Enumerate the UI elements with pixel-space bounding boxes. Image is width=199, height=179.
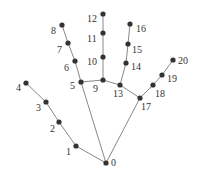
keypoint-17 bbox=[137, 95, 142, 100]
edge-14-15 bbox=[126, 44, 128, 63]
keypoint-label-2: 2 bbox=[50, 123, 55, 134]
edge-5-6 bbox=[75, 61, 81, 82]
labels-layer: 01234567891011121314151617181920 bbox=[16, 13, 188, 168]
keypoint-5 bbox=[78, 79, 83, 84]
keypoint-label-1: 1 bbox=[66, 146, 71, 157]
edge-9-13 bbox=[103, 80, 120, 85]
keypoint-label-11: 11 bbox=[87, 33, 97, 44]
edge-6-7 bbox=[68, 43, 75, 61]
edge-13-17 bbox=[120, 85, 140, 98]
keypoint-label-4: 4 bbox=[16, 82, 21, 93]
keypoint-label-0: 0 bbox=[111, 157, 116, 168]
keypoint-0 bbox=[103, 160, 108, 165]
edge-0-17 bbox=[106, 98, 140, 163]
keypoint-13 bbox=[117, 82, 122, 87]
edge-2-3 bbox=[46, 102, 59, 122]
keypoint-1 bbox=[73, 143, 78, 148]
keypoint-label-8: 8 bbox=[51, 25, 56, 36]
diagram-canvas: 01234567891011121314151617181920 bbox=[0, 0, 199, 179]
keypoint-label-16: 16 bbox=[136, 23, 146, 34]
keypoint-2 bbox=[56, 119, 61, 124]
keypoint-7 bbox=[65, 40, 70, 45]
keypoint-3 bbox=[43, 99, 48, 104]
keypoint-14 bbox=[123, 60, 128, 65]
edge-5-9 bbox=[81, 80, 103, 82]
edge-13-14 bbox=[120, 63, 126, 85]
keypoint-label-7: 7 bbox=[57, 44, 62, 55]
edge-1-2 bbox=[59, 122, 76, 146]
keypoint-10 bbox=[100, 54, 105, 59]
keypoint-12 bbox=[100, 11, 105, 16]
hand-keypoint-diagram: 01234567891011121314151617181920 bbox=[0, 0, 199, 179]
keypoint-20 bbox=[170, 57, 175, 62]
keypoint-label-20: 20 bbox=[178, 55, 188, 66]
keypoint-6 bbox=[72, 58, 77, 63]
keypoint-16 bbox=[127, 21, 132, 26]
keypoint-label-5: 5 bbox=[70, 80, 75, 91]
keypoint-label-12: 12 bbox=[87, 13, 97, 24]
keypoint-label-9: 9 bbox=[93, 83, 98, 94]
edges-layer bbox=[26, 14, 173, 163]
keypoint-label-6: 6 bbox=[64, 62, 69, 73]
keypoint-label-15: 15 bbox=[132, 44, 142, 55]
keypoint-19 bbox=[159, 72, 164, 77]
keypoint-label-19: 19 bbox=[167, 73, 177, 84]
edge-3-4 bbox=[26, 83, 46, 102]
keypoint-label-3: 3 bbox=[36, 102, 41, 113]
keypoint-label-18: 18 bbox=[155, 88, 165, 99]
keypoint-11 bbox=[100, 30, 105, 35]
edge-17-18 bbox=[140, 85, 153, 98]
edge-7-8 bbox=[62, 25, 68, 43]
keypoint-8 bbox=[59, 22, 64, 27]
keypoint-18 bbox=[150, 82, 155, 87]
keypoint-9 bbox=[100, 77, 105, 82]
keypoint-label-10: 10 bbox=[87, 56, 97, 67]
edge-15-16 bbox=[128, 24, 130, 44]
keypoint-label-13: 13 bbox=[113, 88, 123, 99]
keypoint-4 bbox=[23, 80, 28, 85]
keypoint-label-17: 17 bbox=[141, 101, 151, 112]
keypoint-label-14: 14 bbox=[131, 61, 141, 72]
keypoint-15 bbox=[125, 41, 130, 46]
